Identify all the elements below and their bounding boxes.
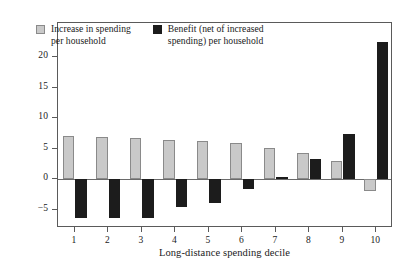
bar-benefit_net-decile-9 [343, 134, 355, 179]
bar-increase_in_spending-decile-2 [96, 137, 108, 179]
x-axis-tick-mark [74, 227, 75, 232]
x-axis-tick-label: 3 [127, 234, 155, 246]
bar-benefit_net-decile-5 [209, 179, 221, 203]
y-axis-tick-label: −5 [38, 202, 48, 215]
legend-entry-benefit-net: Benefit (net of increased spending) per … [153, 23, 264, 46]
bar-increase_in_spending-decile-1 [63, 136, 75, 179]
legend-label-benefit-net: Benefit (net of increased spending) per … [168, 23, 264, 46]
legend-entry-increase-in-spending: Increase in spending per household [36, 23, 131, 46]
bar-increase_in_spending-decile-9 [331, 161, 343, 179]
bar-increase_in_spending-decile-5 [197, 141, 209, 179]
legend-label-increase-in-spending: Increase in spending per household [51, 23, 131, 46]
y-axis-tick-label: 20 [38, 49, 48, 62]
x-axis-tick-mark [107, 227, 108, 232]
x-axis-tick-label: 4 [160, 234, 188, 246]
bar-benefit_net-decile-7 [276, 177, 288, 179]
x-axis-tick-mark [241, 227, 242, 232]
x-axis-title: Long-distance spending decile [57, 246, 392, 259]
x-axis-tick-mark [208, 227, 209, 232]
bar-benefit_net-decile-1 [75, 179, 87, 218]
bar-increase_in_spending-decile-3 [130, 138, 142, 179]
x-axis-tick-label: 2 [93, 234, 121, 246]
bar-benefit_net-decile-3 [142, 179, 154, 217]
chart-legend: Increase in spending per household Benef… [36, 23, 264, 46]
bar-increase_in_spending-decile-6 [230, 143, 242, 179]
y-axis-tick-label: 0 [43, 171, 48, 184]
x-axis-tick-label: 5 [194, 234, 222, 246]
x-axis-tick-mark [342, 227, 343, 232]
x-axis-tick-label: 7 [261, 234, 289, 246]
x-axis-tick-label: 8 [294, 234, 322, 246]
x-axis-tick-mark [375, 227, 376, 232]
bar-increase_in_spending-decile-4 [163, 140, 175, 180]
bar-benefit_net-decile-6 [243, 179, 255, 189]
y-axis-tick-label: 15 [38, 80, 48, 93]
x-axis-tick-mark [275, 227, 276, 232]
y-axis-tick-label: 5 [43, 141, 48, 154]
bar-benefit_net-decile-4 [176, 179, 188, 206]
legend-swatch-light-gray-square-icon [36, 25, 45, 34]
y-axis-tick-label: 10 [38, 110, 48, 123]
x-axis-tick-label: 6 [227, 234, 255, 246]
chart-figure: −505101520 12345678910 Long-distance spe… [0, 0, 400, 265]
bar-benefit_net-decile-10 [377, 42, 389, 179]
x-axis-tick-mark [308, 227, 309, 232]
x-axis-tick-label: 10 [361, 234, 389, 246]
bar-increase_in_spending-decile-7 [264, 148, 276, 179]
bar-benefit_net-decile-2 [109, 179, 121, 218]
x-axis-tick-label: 1 [60, 234, 88, 246]
x-axis-tick-mark [141, 227, 142, 232]
legend-swatch-dark-square-icon [153, 25, 162, 34]
x-axis-tick-mark [174, 227, 175, 232]
x-axis-tick-label: 9 [328, 234, 356, 246]
bar-increase_in_spending-decile-10 [364, 179, 376, 191]
bar-increase_in_spending-decile-8 [297, 153, 309, 179]
plot-area [57, 22, 392, 227]
bar-benefit_net-decile-8 [310, 159, 322, 179]
